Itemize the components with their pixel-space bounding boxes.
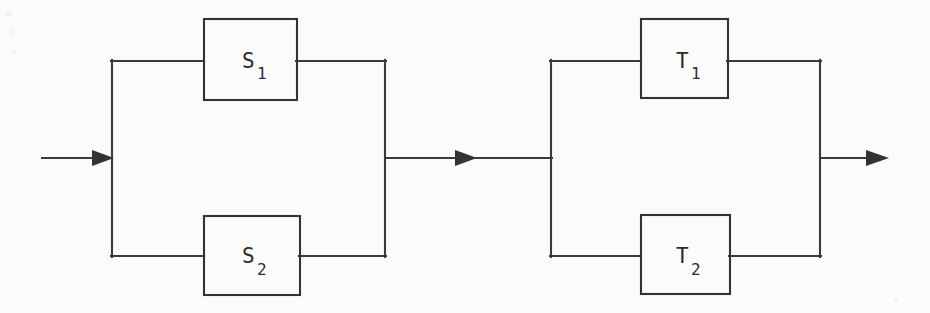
block-t2-subscript: 2 <box>691 260 701 279</box>
middle-connector-arrow <box>385 150 552 166</box>
block-t1: T 1 <box>641 19 728 98</box>
diagram-canvas: S 1 S 2 <box>0 0 930 313</box>
block-s2-subscript: 2 <box>257 260 267 279</box>
output-arrow <box>820 150 889 166</box>
block-t2-label: T <box>676 244 689 268</box>
block-t2: T 2 <box>641 215 730 294</box>
block-s1-label: S <box>242 49 255 73</box>
block-diagram: S 1 S 2 <box>0 0 930 313</box>
right-parallel-group: T 1 T 2 <box>550 19 821 294</box>
left-parallel-group: S 1 S 2 <box>111 19 386 295</box>
block-s2-label: S <box>242 244 255 268</box>
input-arrow <box>42 150 114 166</box>
block-s1: S 1 <box>204 19 297 100</box>
block-t1-label: T <box>676 49 689 73</box>
block-s2: S 2 <box>204 216 300 295</box>
block-s1-subscript: 1 <box>257 64 267 83</box>
block-t1-subscript: 1 <box>691 64 701 83</box>
paper-texture <box>6 11 898 302</box>
